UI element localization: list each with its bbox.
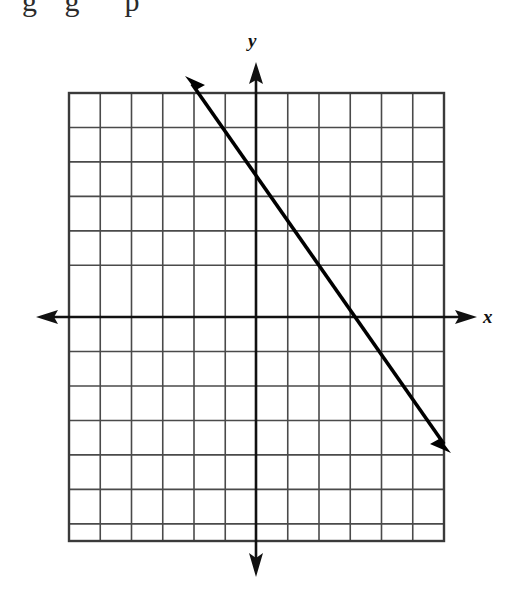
line-arrow-lower-right-icon xyxy=(430,428,451,453)
cropped-header-text: g g p xyxy=(22,0,150,18)
x-axis-label: x xyxy=(483,306,493,328)
figure-canvas: g g p xyxy=(0,0,522,602)
y-axis xyxy=(249,62,263,577)
coordinate-graph xyxy=(0,0,522,602)
y-axis-label: y xyxy=(248,30,256,52)
line-segment xyxy=(192,84,444,444)
